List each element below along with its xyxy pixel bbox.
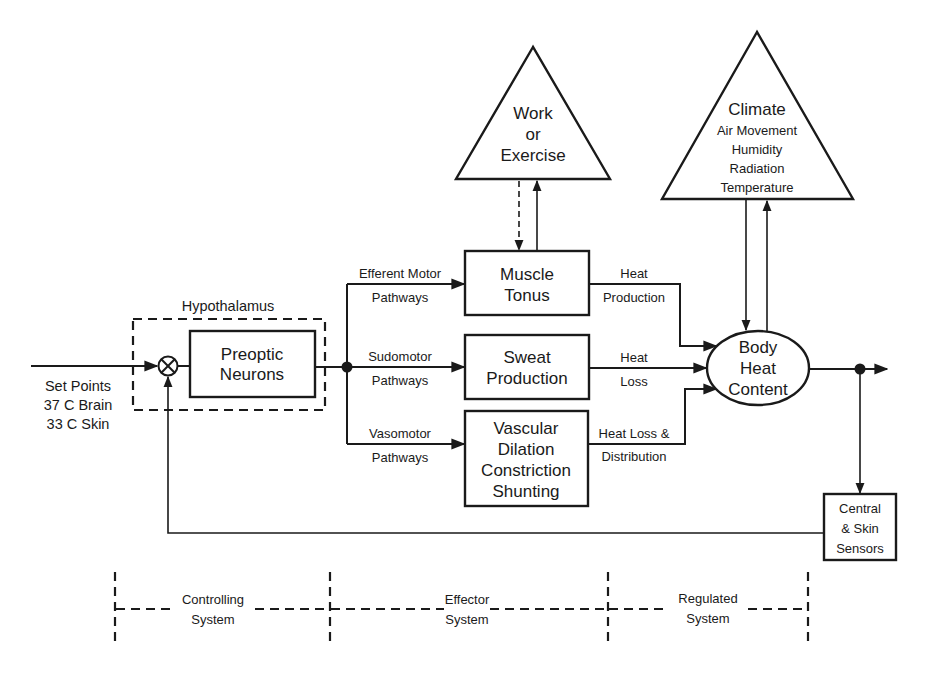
efferent-label-1: Efferent Motor <box>359 266 442 281</box>
summing-junction-icon <box>159 357 178 376</box>
regulated-label-1: Regulated <box>678 591 737 606</box>
set-points-label: Set Points <box>45 378 111 394</box>
body-label-3: Content <box>728 380 788 399</box>
pathway-branches: Efferent Motor Pathways Sudomotor Pathwa… <box>315 266 464 465</box>
body-label-1: Body <box>739 338 778 357</box>
climate-label-2: Air Movement <box>717 123 798 138</box>
work-label-3: Exercise <box>500 146 565 165</box>
sweat-label-1: Sweat <box>503 348 551 367</box>
heat-loss-label-1: Heat <box>620 350 648 365</box>
effector-label-2: System <box>445 612 488 627</box>
climate-label-1: Climate <box>728 100 786 119</box>
body-label-2: Heat <box>740 359 776 378</box>
preoptic-label-1: Preoptic <box>221 345 284 364</box>
sweat-production-block: Sweat Production <box>465 335 589 399</box>
sudomotor-label-2: Pathways <box>372 373 429 388</box>
set-points-input: Set Points 37 C Brain 33 C Skin <box>31 366 157 432</box>
thermoregulation-diagram: Set Points 37 C Brain 33 C Skin Hypothal… <box>0 0 929 680</box>
controlling-label-2: System <box>191 612 234 627</box>
vascular-label-2: Dilation <box>498 440 555 459</box>
vascular-label-3: Constriction <box>481 461 571 480</box>
heat-flows: Heat Production Heat Loss Heat Loss & Di… <box>588 266 716 464</box>
sensors-label-2: & Skin <box>841 521 879 536</box>
set-point-brain: 37 C Brain <box>44 397 113 413</box>
preoptic-neurons-box <box>190 331 315 397</box>
sweat-label-2: Production <box>486 369 567 388</box>
climate-label-3: Humidity <box>732 142 783 157</box>
sensors-label-1: Central <box>839 501 881 516</box>
muscle-label-2: Tonus <box>504 286 549 305</box>
climate-label-5: Temperature <box>721 180 794 195</box>
controlling-label-1: Controlling <box>182 592 244 607</box>
preoptic-label-2: Neurons <box>220 365 284 384</box>
vascular-label-4: Shunting <box>492 482 559 501</box>
sensors-label-3: Sensors <box>836 541 884 556</box>
distribution-label-1: Heat Loss & <box>599 426 670 441</box>
regulated-label-2: System <box>686 611 729 626</box>
climate-label-4: Radiation <box>730 161 785 176</box>
vasomotor-label-2: Pathways <box>372 450 429 465</box>
heat-production-label-2: Production <box>603 290 665 305</box>
vasomotor-label-1: Vasomotor <box>369 426 432 441</box>
set-point-skin: 33 C Skin <box>47 416 110 432</box>
body-heat-content: Body Heat Content <box>707 331 809 405</box>
sweat-production-box <box>465 335 589 399</box>
hypothalamus-group: Hypothalamus Preoptic Neurons <box>133 298 325 410</box>
muscle-label-1: Muscle <box>500 265 554 284</box>
hypothalamus-label: Hypothalamus <box>182 298 275 314</box>
distribution-label-2: Distribution <box>601 449 666 464</box>
climate-disturbance: Climate Air Movement Humidity Radiation … <box>662 32 853 331</box>
work-label-1: Work <box>513 104 553 123</box>
work-label-2: or <box>525 125 540 144</box>
work-exercise-disturbance: Work or Exercise <box>456 47 610 251</box>
efferent-label-2: Pathways <box>372 290 429 305</box>
system-divisions: Controlling System Effector System Regul… <box>115 572 808 646</box>
vascular-block: Vascular Dilation Constriction Shunting <box>465 411 588 506</box>
vascular-label-1: Vascular <box>494 419 559 438</box>
heat-production-label-1: Heat <box>620 266 648 281</box>
muscle-tonus-block: Muscle Tonus <box>465 251 589 315</box>
sudomotor-label-1: Sudomotor <box>368 349 432 364</box>
effector-label-1: Effector <box>445 592 490 607</box>
heat-loss-label-2: Loss <box>620 374 648 389</box>
